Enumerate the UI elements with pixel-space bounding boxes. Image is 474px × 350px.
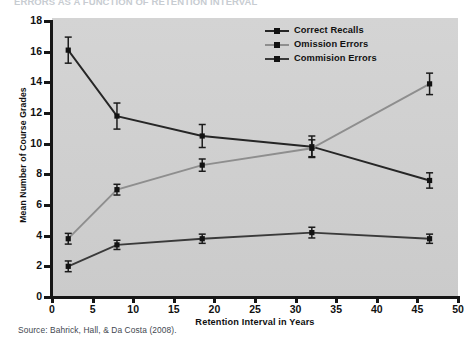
x-tick-label: 40 (362, 303, 392, 315)
data-point-marker (114, 187, 119, 192)
x-tick-mark (213, 296, 216, 303)
data-point-marker (427, 178, 432, 183)
x-tick-label: 20 (199, 303, 229, 315)
data-point-marker (200, 236, 205, 241)
series-line (68, 233, 429, 267)
y-tick-label: 18 (0, 14, 42, 26)
data-point-marker (309, 230, 314, 235)
series-omission-errors (65, 73, 433, 244)
data-point-marker (66, 236, 71, 241)
y-tick-label: 0 (0, 290, 42, 302)
y-tick-mark (44, 81, 51, 84)
y-tick-mark (44, 265, 51, 268)
legend-label: Correct Recalls (294, 25, 364, 35)
y-tick-label: 16 (0, 45, 42, 57)
data-point-marker (114, 242, 119, 247)
x-tick-label: 35 (321, 303, 351, 315)
x-tick-label: 0 (37, 303, 67, 315)
x-tick-label: 5 (78, 303, 108, 315)
legend-label: Commision Errors (294, 53, 377, 63)
x-tick-label: 50 (443, 303, 473, 315)
chart-legend: Correct RecallsOmission ErrorsCommision … (265, 24, 377, 66)
x-tick-mark (295, 296, 298, 303)
legend-swatch-icon (265, 25, 289, 35)
data-point-marker (427, 81, 432, 86)
y-tick-mark (44, 296, 51, 299)
series-line (68, 50, 429, 180)
x-tick-mark (132, 296, 135, 303)
data-point-marker (309, 146, 314, 151)
legend-swatch-icon (265, 53, 289, 63)
x-tick-label: 15 (159, 303, 189, 315)
data-point-marker (200, 133, 205, 138)
x-tick-mark (416, 296, 419, 303)
x-tick-mark (173, 296, 176, 303)
x-tick-mark (457, 296, 460, 303)
legend-marker-icon (274, 56, 280, 62)
x-tick-mark (376, 296, 379, 303)
x-tick-label: 30 (281, 303, 311, 315)
data-point-marker (114, 113, 119, 118)
data-point-marker (66, 264, 71, 269)
y-tick-mark (44, 173, 51, 176)
x-tick-mark (92, 296, 95, 303)
x-tick-label: 25 (240, 303, 270, 315)
source-note: Source: Bahrick, Hall, & Da Costa (2008)… (18, 325, 177, 335)
y-tick-mark (44, 204, 51, 207)
x-tick-label: 45 (402, 303, 432, 315)
data-point-marker (66, 48, 71, 53)
x-tick-mark (335, 296, 338, 303)
legend-item[interactable]: Commision Errors (265, 52, 377, 64)
y-tick-mark (44, 112, 51, 115)
y-tick-mark (44, 143, 51, 146)
legend-marker-icon (274, 42, 280, 48)
legend-marker-icon (274, 28, 280, 34)
y-axis-line (50, 20, 53, 299)
y-tick-mark (44, 20, 51, 23)
y-tick-label: 2 (0, 259, 42, 271)
data-point-marker (427, 236, 432, 241)
x-tick-mark (254, 296, 257, 303)
y-tick-mark (44, 235, 51, 238)
legend-item[interactable]: Omission Errors (265, 38, 377, 50)
data-point-marker (200, 163, 205, 168)
legend-label: Omission Errors (294, 39, 368, 49)
series-commision-errors (65, 227, 433, 271)
legend-swatch-icon (265, 39, 289, 49)
legend-item[interactable]: Correct Recalls (265, 24, 377, 36)
y-tick-mark (44, 51, 51, 54)
chart-figure: ERRORS AS A FUNCTION OF RETENTION INTERV… (0, 0, 474, 350)
series-line (68, 84, 429, 239)
x-tick-label: 10 (118, 303, 148, 315)
x-tick-mark (51, 296, 54, 303)
y-axis-label: Mean Number of Course Grades (18, 70, 28, 240)
